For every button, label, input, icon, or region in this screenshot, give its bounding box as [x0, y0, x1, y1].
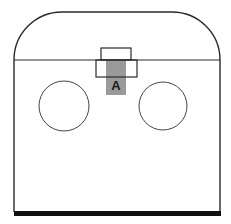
right-circle — [139, 82, 187, 130]
component-a-label: A — [106, 78, 126, 94]
upper-box — [101, 48, 131, 60]
enclosure-outline — [14, 12, 220, 212]
base-bar — [14, 211, 221, 216]
enclosure-diagram — [0, 0, 231, 224]
left-circle — [39, 81, 89, 131]
